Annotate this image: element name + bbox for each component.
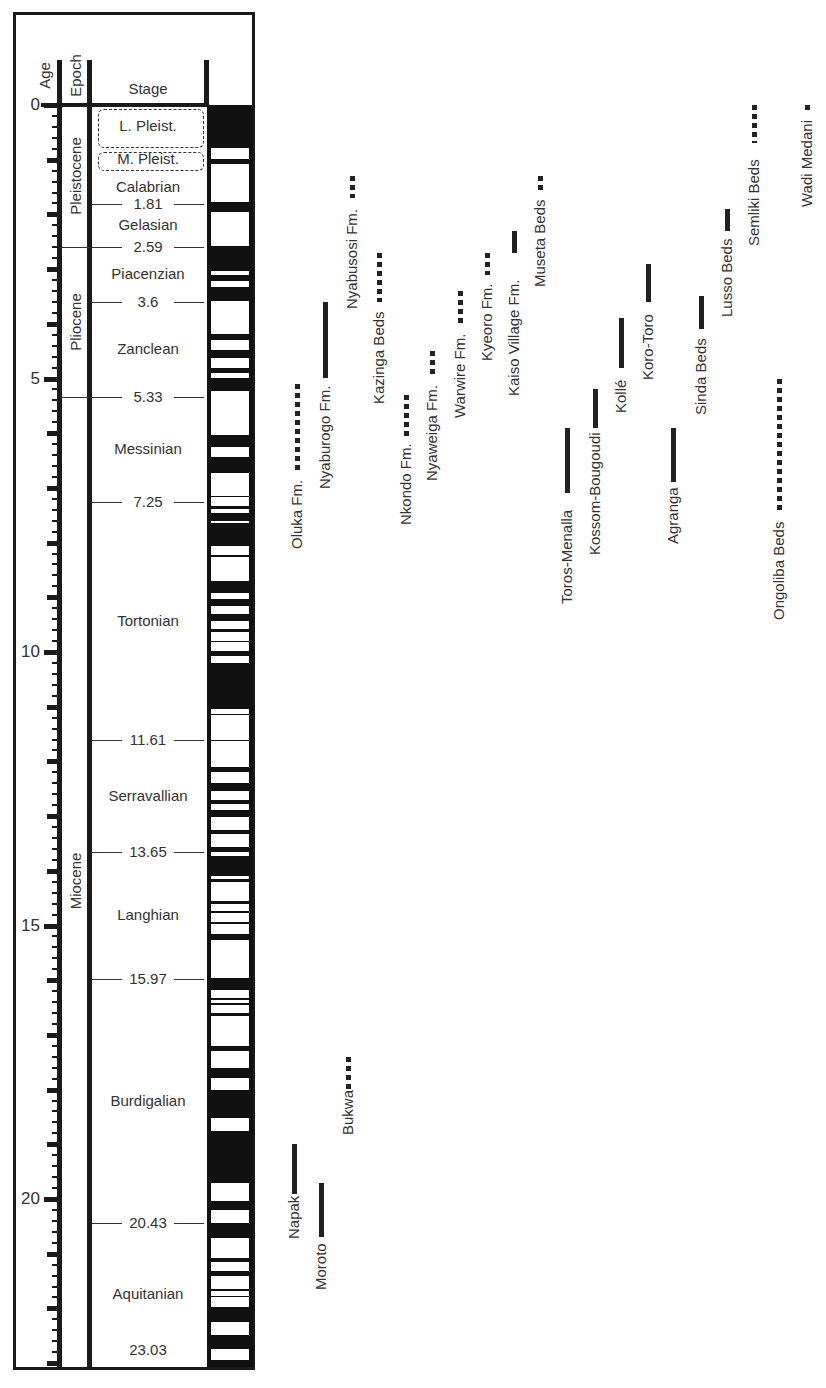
locality-label: Semliki Beds [745, 159, 762, 246]
locality-label: Nyaweiga Fm. [423, 385, 440, 481]
stage-label: Serravallian [92, 787, 204, 804]
reversed-interval [211, 1291, 249, 1296]
age-tick [44, 924, 59, 929]
age-tick [52, 1351, 59, 1353]
boundary-label: 3.6 [92, 293, 204, 310]
age-label: 20 [10, 1189, 40, 1209]
boundary-label: 15.97 [92, 970, 204, 987]
reversed-interval [211, 1078, 249, 1090]
age-tick [52, 1121, 59, 1123]
age-tick [52, 399, 59, 401]
age-tick [47, 1142, 59, 1147]
age-tick [52, 585, 59, 587]
age-tick [52, 804, 59, 806]
age-tick [47, 1033, 59, 1038]
age-tick [52, 498, 59, 500]
reversed-interval [211, 164, 249, 202]
epoch-pliocene: Pliocene [61, 247, 89, 397]
locality-range-bar [805, 105, 810, 113]
reversed-interval [211, 497, 249, 506]
reversed-interval [211, 1118, 249, 1131]
age-tick [52, 662, 59, 664]
stage-label: Gelasian [92, 216, 204, 233]
locality-range-bar [292, 1144, 297, 1193]
reversed-interval [211, 904, 249, 911]
age-tick [52, 246, 59, 248]
age-tick [52, 640, 59, 642]
age-label: 10 [10, 642, 40, 662]
age-tick [47, 814, 59, 819]
stage-label: L. Pleist. [92, 117, 204, 134]
age-label: 0 [10, 95, 40, 115]
locality-range-bar [404, 395, 409, 439]
age-tick [52, 181, 59, 183]
age-header: Age [36, 56, 53, 96]
locality-label: Sinda Beds [692, 339, 709, 416]
age-tick [52, 1220, 59, 1222]
age-tick [52, 837, 59, 839]
age-tick [52, 1100, 59, 1102]
age-tick [52, 553, 59, 555]
age-tick [44, 103, 59, 108]
reversed-interval [211, 990, 249, 998]
age-tick [52, 148, 59, 150]
reversed-interval [211, 804, 249, 810]
reversed-interval [211, 924, 249, 933]
age-tick [52, 574, 59, 576]
reversed-interval [211, 715, 249, 740]
locality-label: Agranga [664, 487, 681, 544]
age-tick [52, 1154, 59, 1156]
age-label: 5 [10, 369, 40, 389]
age-tick [52, 115, 59, 117]
age-tick [52, 826, 59, 828]
locality-range-bar [512, 231, 517, 253]
reversed-interval [211, 606, 249, 614]
age-tick [52, 1242, 59, 1244]
reversed-interval [211, 148, 249, 159]
age-tick [47, 267, 59, 272]
age-tick [52, 957, 59, 959]
age-tick [47, 541, 59, 546]
locality-range-bar [565, 428, 570, 494]
epoch-label: Miocene [67, 852, 84, 909]
age-tick [52, 301, 59, 303]
age-tick [52, 520, 59, 522]
boundary-label: 20.43 [92, 1214, 204, 1231]
locality-label: Kossom-Bougoudi [586, 432, 603, 555]
age-tick [52, 257, 59, 259]
stage-boundary: 1.81 [92, 197, 204, 211]
age-tick [52, 1110, 59, 1112]
reversed-interval [211, 876, 249, 879]
locality-range-bar [377, 253, 382, 302]
age-tick [52, 126, 59, 128]
age-tick [52, 793, 59, 795]
reversed-interval [211, 301, 249, 334]
age-tick [52, 728, 59, 730]
age-tick [52, 1318, 59, 1320]
age-tick [52, 509, 59, 511]
age-tick [47, 212, 59, 217]
age-tick [47, 431, 59, 436]
age-tick [52, 629, 59, 631]
boundary-label: 7.25 [92, 493, 204, 510]
locality-range-bar [699, 296, 704, 329]
locality-label: Nyabusosi Fm. [343, 209, 360, 309]
reversed-interval [211, 1297, 249, 1307]
age-tick [52, 563, 59, 565]
stage-label: Zanclean [92, 340, 204, 357]
reversed-interval [211, 1322, 249, 1335]
reversed-interval [211, 913, 249, 921]
age-tick [52, 1340, 59, 1342]
age-tick [52, 170, 59, 172]
reversed-interval [211, 741, 249, 767]
age-tick [52, 367, 59, 369]
stage-label: Piacenzian [92, 265, 204, 282]
stage-boundary: 5.33 [92, 390, 204, 404]
age-tick [52, 1045, 59, 1047]
reversed-interval [211, 632, 249, 641]
locality-range-bar [752, 105, 757, 143]
reversed-interval [211, 447, 249, 457]
reversed-interval [211, 1016, 249, 1046]
locality-range-bar [319, 1183, 324, 1238]
stage-header: Stage [92, 80, 204, 97]
